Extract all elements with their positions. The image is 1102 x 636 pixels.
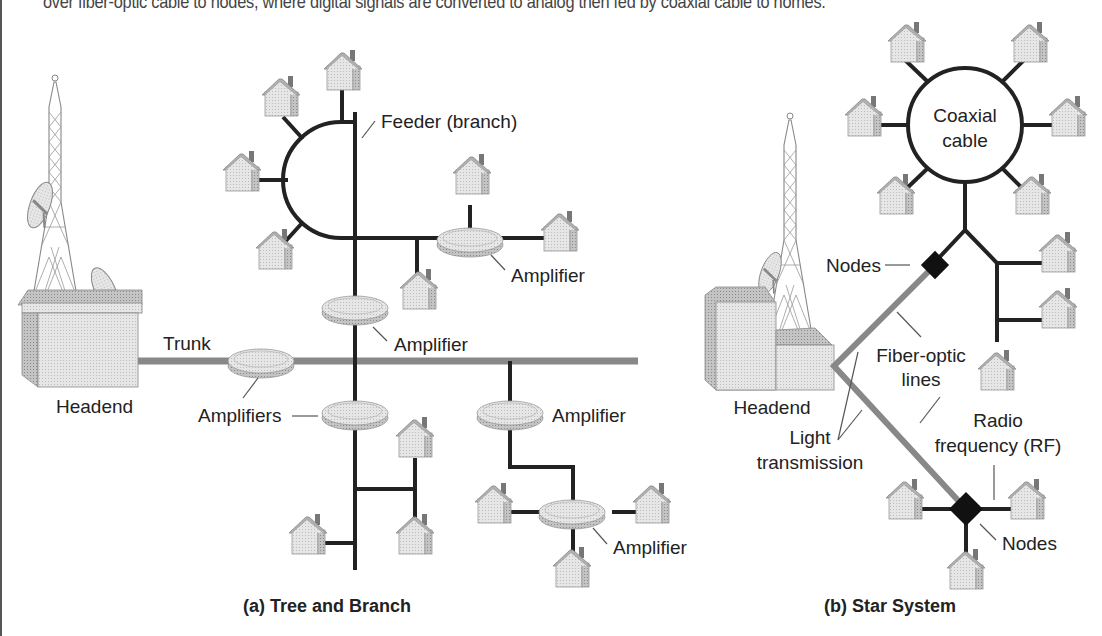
amplifier-label: Amplifier: [552, 405, 627, 426]
house-icon: [475, 483, 513, 523]
house-icon: [1011, 22, 1049, 62]
radio-frequency-label: frequency (RF): [935, 435, 1062, 456]
trunk-label: Trunk: [163, 333, 211, 354]
light-transmission-label: Light: [789, 427, 831, 448]
house-icon: [978, 350, 1016, 390]
nodes-label: Nodes: [826, 255, 881, 276]
house-icon: [400, 269, 438, 309]
house-icon: [262, 76, 300, 116]
house-icon: [888, 22, 926, 62]
house-icon: [845, 96, 883, 136]
light-transmission-label: transmission: [757, 452, 864, 473]
headend-building-icon: [705, 113, 834, 390]
amplifier-label: Amplifier: [511, 265, 586, 286]
amplifier-icon: [322, 401, 388, 430]
house-icon: [289, 514, 327, 554]
tree-and-branch-diagram: Feeder (branch) Amplifier Amplifier Trun…: [18, 50, 688, 616]
cable-network-diagram: Feeder (branch) Amplifier Amplifier Trun…: [0, 0, 1102, 636]
feeder-label: Feeder (branch): [381, 111, 517, 132]
headend-label: Headend: [56, 396, 133, 417]
nodes-label: Nodes: [1002, 533, 1057, 554]
house-icon: [553, 547, 591, 587]
amplifier-icon: [477, 401, 543, 430]
amplifier-label: Amplifier: [613, 537, 688, 558]
house-icon: [541, 211, 579, 251]
headend-label: Headend: [733, 397, 810, 418]
house-icon: [223, 151, 261, 191]
amplifier-icon: [322, 296, 388, 325]
star-system-diagram: Coaxial cable: [705, 22, 1087, 616]
house-icon: [396, 417, 434, 457]
amplifiers-label: Amplifiers: [198, 405, 281, 426]
star-system-title: (b) Star System: [824, 596, 956, 616]
house-icon: [324, 50, 362, 90]
house-icon: [1039, 232, 1077, 272]
radio-frequency-label: Radio: [973, 410, 1023, 431]
house-icon: [877, 174, 915, 214]
headend-building-icon: [18, 75, 142, 387]
house-icon: [886, 479, 924, 519]
house-icon: [256, 229, 294, 269]
feeder-arc: [283, 122, 355, 238]
amplifier-label: Amplifier: [394, 334, 469, 355]
coaxial-label: cable: [942, 130, 987, 151]
house-icon: [1039, 288, 1077, 328]
house-icon: [1008, 479, 1046, 519]
tree-and-branch-title: (a) Tree and Branch: [243, 596, 411, 616]
house-icon: [947, 549, 985, 589]
house-icon: [453, 154, 491, 194]
amplifier-icon: [539, 500, 605, 529]
fiber-optic-label: lines: [901, 369, 940, 390]
house-icon: [396, 514, 434, 554]
amplifier-icon: [228, 349, 294, 378]
fiber-optic-label: Fiber-optic: [876, 345, 966, 366]
house-icon: [633, 483, 671, 523]
coaxial-label: Coaxial: [933, 105, 996, 126]
house-icon: [1049, 96, 1087, 136]
amplifier-icon: [437, 228, 503, 257]
house-icon: [1013, 174, 1051, 214]
